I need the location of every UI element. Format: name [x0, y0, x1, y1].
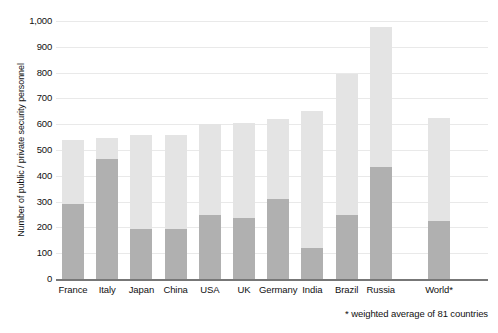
bar	[130, 135, 152, 279]
x-axis-line	[56, 279, 488, 281]
bar-segment-public	[130, 229, 152, 279]
bar-segment-public	[370, 167, 392, 279]
bar-segment-public	[267, 199, 289, 279]
bar-segment-private	[96, 138, 118, 159]
y-axis-tick-label: 600	[6, 119, 52, 129]
x-axis-category-label: World*	[409, 283, 469, 296]
bar	[336, 74, 358, 279]
y-axis-tick-label: 300	[6, 197, 52, 207]
gridline	[56, 47, 488, 48]
gridline	[56, 73, 488, 74]
footnote: * weighted average of 81 countries	[0, 308, 488, 319]
y-axis-tick-label: 700	[6, 93, 52, 103]
bar-segment-private	[428, 118, 450, 221]
bar-segment-public	[233, 218, 255, 279]
bar-segment-private	[233, 123, 255, 218]
y-axis-tick-label: 900	[6, 42, 52, 52]
y-axis-tick-label: 1,000	[6, 16, 52, 26]
bar	[370, 27, 392, 279]
y-axis-tick-label: 200	[6, 222, 52, 232]
bar	[233, 123, 255, 279]
bar-segment-private	[62, 140, 84, 205]
plot-area	[56, 21, 488, 279]
bar	[96, 138, 118, 279]
bar	[199, 124, 221, 279]
stacked-bar-chart: Number of public / private security pers…	[0, 0, 498, 333]
x-axis-category-label: Russia	[351, 283, 411, 296]
gridline	[56, 98, 488, 99]
bar-segment-private	[130, 135, 152, 229]
y-axis-tick-label: 800	[6, 68, 52, 78]
y-axis-tick-label: 500	[6, 145, 52, 155]
bar	[301, 111, 323, 279]
gridline	[56, 21, 488, 22]
bar-segment-public	[199, 215, 221, 280]
bar-segment-public	[62, 204, 84, 279]
bar	[267, 119, 289, 279]
bar	[165, 135, 187, 279]
bar-segment-private	[165, 135, 187, 229]
bar	[62, 140, 84, 279]
bar-segment-public	[165, 229, 187, 279]
x-axis-category-labels: FranceItalyJapanChinaUSAUKGermanyIndiaBr…	[56, 283, 488, 299]
y-axis-tick-labels: 1,0009008007006005004003002001000	[0, 21, 52, 279]
bar-segment-private	[301, 111, 323, 248]
bar-segment-public	[301, 248, 323, 279]
y-axis-tick-label: 400	[6, 171, 52, 181]
bar-segment-public	[336, 215, 358, 280]
bar-segment-public	[96, 159, 118, 279]
bar-segment-private	[267, 119, 289, 199]
bar-segment-public	[428, 221, 450, 279]
bar	[428, 118, 450, 279]
y-axis-tick-label: 100	[6, 248, 52, 258]
bar-segment-private	[336, 74, 358, 215]
bar-segment-private	[370, 27, 392, 166]
bar-segment-private	[199, 124, 221, 214]
